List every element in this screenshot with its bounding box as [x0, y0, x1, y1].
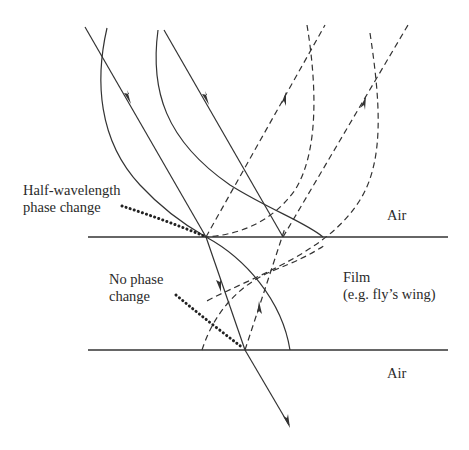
reflected-ray-2 [283, 25, 408, 237]
internal-reflected-ray-arrow-icon [257, 301, 262, 314]
half-wavelength-pointer [122, 206, 204, 236]
reflected-ray-1-arrow-icon [281, 92, 286, 106]
air-bottom-label: Air [387, 365, 406, 382]
film-label-line2: (e.g. fly’s wing) [343, 286, 436, 303]
no-phase-change-label-line1: No phase [109, 271, 163, 288]
refracted-ray [206, 237, 245, 350]
reflected-wavefront-2 [205, 33, 378, 302]
half-wavelength-label-line2: phase change [23, 199, 120, 216]
half-wavelength-label: Half-wavelength phase change [23, 182, 120, 216]
internal-reflected-ray [245, 228, 285, 350]
internal-wavefront [202, 245, 325, 350]
film-label-line1: Film [343, 269, 436, 286]
thin-film-diagram [0, 0, 469, 450]
incident-wavefront-2 [156, 30, 323, 237]
no-phase-change-label: No phase change [109, 271, 163, 305]
transmitted-ray [245, 350, 289, 425]
no-phase-change-label-line2: change [109, 288, 163, 305]
film-label: Film (e.g. fly’s wing) [343, 269, 436, 303]
reflected-ray-2-arrow-icon [360, 96, 366, 110]
half-wavelength-label-line1: Half-wavelength [23, 182, 120, 199]
no-phase-pointer [176, 295, 243, 348]
air-top-label: Air [387, 207, 406, 224]
